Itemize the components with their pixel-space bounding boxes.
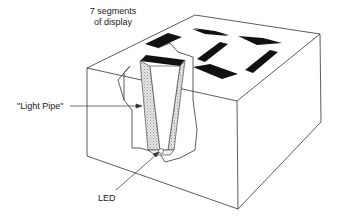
segments-label-line1: 7 segments xyxy=(85,6,141,17)
segments-label: 7 segments of display xyxy=(85,6,141,28)
light-pipe-label: "Light Pipe" xyxy=(17,101,63,112)
light-pipe xyxy=(140,60,185,155)
led-label: LED xyxy=(98,193,116,204)
display-housing-box xyxy=(87,15,321,209)
led-icon xyxy=(159,149,164,154)
segments-label-line2: of display xyxy=(85,17,141,28)
